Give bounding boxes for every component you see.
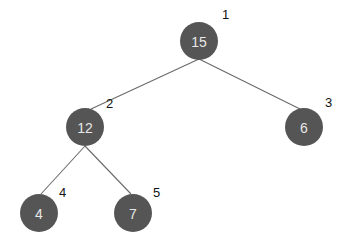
node-index-label: 1 [222,7,229,22]
tree-node-right: 6 3 [285,95,332,146]
tree-node-root: 15 1 [180,7,229,60]
tree-node-left-right: 7 5 [114,185,160,232]
node-value: 7 [129,206,137,222]
nodes-layer: 15 1 12 2 6 3 4 4 7 5 [20,7,332,232]
node-index-label: 2 [106,96,113,111]
tree-diagram: 15 1 12 2 6 3 4 4 7 5 [0,0,352,248]
edge-12-to-7 [85,146,131,194]
edge-15-to-6 [199,59,300,109]
tree-node-left: 12 2 [66,96,113,146]
node-value: 15 [191,34,207,50]
node-index-label: 5 [153,185,160,200]
node-value: 4 [35,206,43,222]
node-value: 6 [300,120,308,136]
node-value: 12 [77,120,93,136]
node-index-label: 3 [325,95,332,110]
node-index-label: 4 [59,185,66,200]
